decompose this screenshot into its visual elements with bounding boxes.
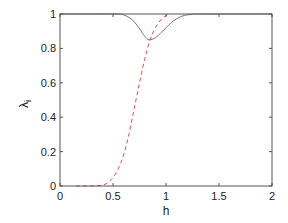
y-axis-label: λi <box>17 100 33 108</box>
plot-lines <box>60 14 272 186</box>
y-tick-label: 0.8 <box>41 42 56 54</box>
y-tick-label: 0.4 <box>41 111 56 123</box>
x-tick-label: 1 <box>163 190 169 202</box>
y-tick-label: 0 <box>50 180 56 192</box>
x-tick-label: 1.5 <box>211 190 226 202</box>
series-line-dashed <box>76 14 169 186</box>
plot-frame <box>60 14 272 186</box>
line-chart: 00.511.52 00.20.40.60.81 h λi <box>0 0 288 223</box>
series-line-solid <box>60 14 272 40</box>
y-axis-ticks: 00.20.40.60.81 <box>41 8 272 192</box>
x-axis-label: h <box>163 204 170 218</box>
x-tick-label: 2 <box>269 190 275 202</box>
svg-text:λi: λi <box>17 100 33 108</box>
x-tick-label: 0.5 <box>105 190 120 202</box>
y-tick-label: 0.6 <box>41 77 56 89</box>
y-tick-label: 0.2 <box>41 146 56 158</box>
y-tick-label: 1 <box>50 8 56 20</box>
x-axis-ticks: 00.511.52 <box>57 14 275 202</box>
x-tick-label: 0 <box>57 190 63 202</box>
